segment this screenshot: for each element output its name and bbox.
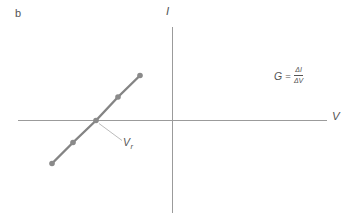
reversal-potential-symbol: V: [123, 136, 130, 148]
data-point: [49, 161, 55, 167]
x-axis-label: V: [332, 111, 340, 123]
formula-denominator: ΔV: [294, 76, 303, 85]
formula-lhs: G: [274, 71, 282, 82]
panel-label: b: [15, 8, 21, 19]
iv-curve-figure: b I V Vr G = ΔI ΔV: [0, 0, 360, 224]
data-point: [137, 73, 143, 79]
formula-numerator: ΔI: [294, 66, 304, 76]
plot-svg: [0, 0, 360, 224]
formula-equals: =: [285, 71, 291, 81]
data-point: [115, 94, 121, 100]
conductance-formula: G = ΔI ΔV: [274, 66, 303, 86]
reversal-potential-label: Vr: [123, 137, 133, 150]
vr-leader-line: [99, 124, 122, 141]
data-point: [70, 140, 76, 146]
y-axis-label: I: [166, 6, 169, 18]
formula-fraction: ΔI ΔV: [294, 66, 304, 86]
reversal-potential-subscript: r: [131, 142, 134, 151]
data-point: [93, 118, 99, 124]
